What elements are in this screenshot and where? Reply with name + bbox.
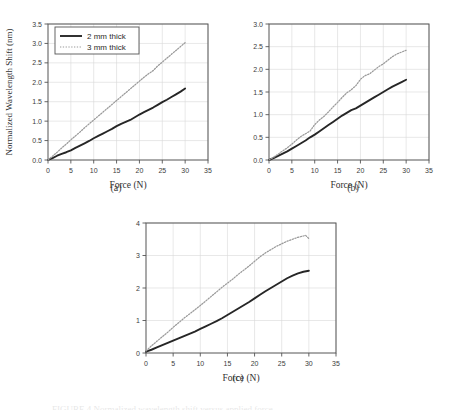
svg-text:2.0: 2.0 [253, 66, 263, 73]
chart-svg-a: 051015202530350.00.51.01.52.02.53.03.5 2… [0, 0, 232, 200]
svg-text:15: 15 [113, 167, 121, 174]
svg-text:0.5: 0.5 [32, 137, 42, 144]
svg-text:3.0: 3.0 [253, 21, 263, 28]
tick-labels-c: 0510152025303501234 [136, 220, 340, 367]
svg-text:20: 20 [251, 360, 259, 367]
svg-text:5: 5 [290, 167, 294, 174]
svg-text:15: 15 [224, 360, 232, 367]
svg-text:3.5: 3.5 [32, 21, 42, 28]
chart-panel-a: 051015202530350.00.51.01.52.02.53.03.5 2… [0, 0, 232, 200]
svg-text:10: 10 [196, 360, 204, 367]
bottom-partial-caption: FIGURE 4 Normalized wavelength shift ver… [52, 405, 422, 410]
svg-text:35: 35 [425, 167, 433, 174]
svg-text:1.5: 1.5 [253, 89, 263, 96]
svg-text:20: 20 [136, 167, 144, 174]
svg-text:2: 2 [136, 285, 140, 292]
svg-text:0.0: 0.0 [253, 157, 263, 164]
svg-text:10: 10 [90, 167, 98, 174]
panel-caption-c: (c) [118, 372, 358, 383]
svg-text:30: 30 [181, 167, 189, 174]
gridlines-c [146, 223, 336, 353]
svg-text:0: 0 [267, 167, 271, 174]
svg-text:10: 10 [311, 167, 319, 174]
svg-text:0: 0 [144, 360, 148, 367]
svg-text:25: 25 [379, 167, 387, 174]
chart-panel-c: 0510152025303501234 Force (N) (c) [118, 205, 358, 390]
svg-text:3.0: 3.0 [32, 40, 42, 47]
chart-svg-c: 0510152025303501234 Force (N) [118, 205, 358, 390]
y-axis-title-a: Normalized Wavelength Shift (nm) [4, 29, 14, 156]
svg-text:2.0: 2.0 [32, 79, 42, 86]
svg-text:30: 30 [305, 360, 313, 367]
svg-text:0.0: 0.0 [32, 157, 42, 164]
chart-panel-b: 051015202530350.00.51.01.52.02.53.0 Forc… [237, 0, 469, 200]
bottom-partial-caption-text: FIGURE 4 Normalized wavelength shift ver… [52, 405, 422, 410]
plot-frame-c [143, 223, 337, 357]
svg-text:20: 20 [357, 167, 365, 174]
svg-text:35: 35 [204, 167, 212, 174]
svg-text:1.0: 1.0 [32, 118, 42, 125]
svg-text:1: 1 [136, 317, 140, 324]
panel-caption-b: (b) [237, 182, 469, 193]
svg-text:0.5: 0.5 [253, 134, 263, 141]
svg-text:35: 35 [332, 360, 340, 367]
panel-caption-a: (a) [0, 182, 232, 193]
gridlines-b [269, 24, 429, 160]
figure-container: 051015202530350.00.51.01.52.02.53.03.5 2… [0, 0, 474, 411]
plot-frame-b [266, 24, 430, 164]
legend-a: 2 mm thick3 mm thick [55, 27, 139, 54]
svg-text:25: 25 [278, 360, 286, 367]
svg-text:2.5: 2.5 [253, 43, 263, 50]
svg-text:5: 5 [69, 167, 73, 174]
svg-text:4: 4 [136, 220, 140, 227]
svg-text:1.0: 1.0 [253, 111, 263, 118]
svg-text:15: 15 [334, 167, 342, 174]
svg-text:0: 0 [136, 350, 140, 357]
svg-text:0: 0 [46, 167, 50, 174]
svg-text:1.5: 1.5 [32, 98, 42, 105]
chart-svg-b: 051015202530350.00.51.01.52.02.53.0 Forc… [237, 0, 469, 200]
svg-text:2.5: 2.5 [32, 59, 42, 66]
svg-text:30: 30 [402, 167, 410, 174]
legend-label-2mm: 2 mm thick [87, 32, 127, 41]
legend-label-3mm: 3 mm thick [87, 43, 127, 52]
svg-text:25: 25 [158, 167, 166, 174]
svg-text:3: 3 [136, 252, 140, 259]
svg-text:5: 5 [171, 360, 175, 367]
